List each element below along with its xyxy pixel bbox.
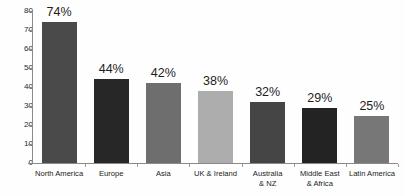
x-axis-tick-mark — [85, 164, 86, 167]
x-axis-tick-mark — [294, 164, 295, 167]
bar-value-label: 42% — [137, 67, 190, 80]
bar — [198, 91, 233, 163]
bar — [42, 22, 77, 163]
y-axis-tick-mark — [28, 87, 32, 88]
bar — [146, 83, 181, 163]
x-axis-line — [32, 163, 398, 164]
y-axis-tick-mark — [28, 68, 32, 69]
y-axis-tick-mark — [28, 106, 32, 107]
bar-value-label: 38% — [189, 75, 242, 88]
y-axis-tick-mark — [28, 163, 32, 164]
y-axis-tick-mark — [28, 30, 32, 31]
x-axis-tick-mark — [398, 164, 399, 167]
y-axis-tick-mark — [28, 11, 32, 12]
x-axis-tick-mark — [137, 164, 138, 167]
bar — [250, 102, 285, 163]
bar — [354, 116, 389, 164]
y-axis-tick-mark — [28, 125, 32, 126]
bar-value-label: 29% — [293, 92, 346, 105]
bar — [94, 79, 129, 163]
x-axis-tick-mark — [242, 164, 243, 167]
y-axis-tick-mark — [28, 144, 32, 145]
y-axis-tick-mark — [28, 49, 32, 50]
bar-value-label: 44% — [85, 63, 138, 76]
x-axis-tick-mark — [189, 164, 190, 167]
bar-value-label: 25% — [345, 100, 398, 113]
bar-value-label: 32% — [241, 86, 294, 99]
x-axis-category-label: Latin America — [340, 169, 404, 179]
bar-chart-screenshot: 01020304050607080 74%North America44%Eur… — [0, 0, 405, 196]
bar-value-label: 74% — [33, 6, 86, 19]
bar — [302, 108, 337, 163]
x-axis-tick-mark — [346, 164, 347, 167]
